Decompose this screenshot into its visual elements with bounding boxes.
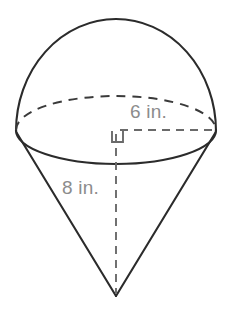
cone-right-slant-edge [116, 133, 216, 297]
radius-label: 6 in. [130, 101, 167, 122]
cone-left-slant-edge [17, 133, 117, 297]
hemisphere-dome-arc [16, 19, 216, 131]
height-label: 8 in. [62, 177, 99, 198]
composite-solid-figure: 6 in. 8 in. [0, 0, 231, 322]
figure-canvas: 6 in. 8 in. [0, 0, 231, 322]
base-ellipse-back-arc-dashed [16, 96, 216, 130]
right-angle-marker-icon [112, 131, 123, 142]
